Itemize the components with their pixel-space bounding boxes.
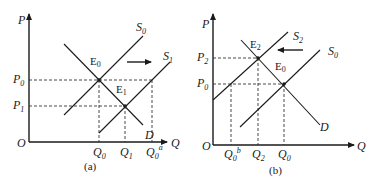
supply-curve-s1 xyxy=(99,62,170,133)
equilibrium-e2-point xyxy=(256,56,260,60)
demand-curve-d xyxy=(64,44,143,125)
panel-a-caption: (a) xyxy=(84,160,97,173)
quantity-axis-label: Q xyxy=(357,139,366,153)
quantity-axis-label: Q xyxy=(171,136,180,150)
e2-label: E2 xyxy=(250,38,261,52)
e0-label: E0 xyxy=(275,60,286,74)
supply-demand-diagram: P Q O S0 S1 D E0 E1 P0 P1 Q0 Q1 Q0a (a) xyxy=(0,0,377,185)
e1-label: E1 xyxy=(116,83,127,97)
d-label: D xyxy=(319,120,329,134)
p0-tick-label: P0 xyxy=(12,72,24,88)
equilibrium-e1-point xyxy=(123,104,127,108)
s1-label: S1 xyxy=(163,49,173,65)
price-axis-label: P xyxy=(201,17,210,31)
demand-curve-d xyxy=(241,40,320,125)
s0-label: S0 xyxy=(136,20,146,36)
q0-tick-label: Q0 xyxy=(93,145,106,161)
q1-tick-label: Q1 xyxy=(120,145,133,161)
q0-tick-label: Q0 xyxy=(278,147,291,163)
s2-label: S2 xyxy=(293,29,303,45)
origin-label: O xyxy=(17,136,26,150)
panel-b-caption: (b) xyxy=(269,164,282,177)
p2-tick-label: P2 xyxy=(196,50,208,66)
s0-label: S0 xyxy=(328,44,338,60)
d-label: D xyxy=(144,128,154,142)
p1-tick-label: P1 xyxy=(12,98,24,114)
panel-b: P Q O S2 S0 D E2 E0 P2 P0 Q0b Q2 Q0 (b) xyxy=(196,14,366,177)
p0-tick-label: P0 xyxy=(196,76,208,92)
equilibrium-e0-point xyxy=(282,82,286,86)
q0a-tick-label: Q0a xyxy=(146,143,163,161)
q2-tick-label: Q2 xyxy=(252,147,265,163)
equilibrium-e0-point xyxy=(97,78,101,82)
supply-curve-s0 xyxy=(64,36,143,115)
e0-label: E0 xyxy=(90,55,101,69)
origin-label: O xyxy=(202,139,211,153)
price-axis-label: P xyxy=(17,13,26,27)
q0b-tick-label: Q0b xyxy=(224,146,241,163)
panel-a: P Q O S0 S1 D E0 E1 P0 P1 Q0 Q1 Q0a (a) xyxy=(12,13,180,173)
